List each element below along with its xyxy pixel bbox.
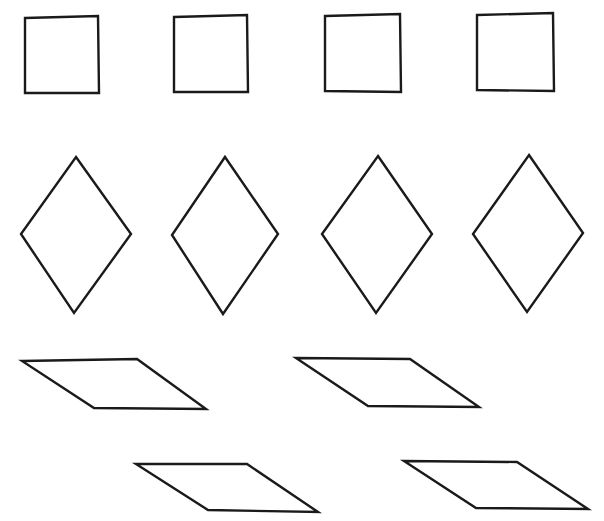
rhombus-3: Rhombus 3 — [322, 156, 432, 313]
square-4: Square 4 — [477, 13, 554, 91]
rhombus-4: Rhombus 4 — [473, 155, 583, 312]
square-3: Square 3 — [325, 14, 401, 92]
square-2: Square 2 — [174, 15, 248, 92]
parallelogram-4: Parallelogram 4 — [404, 461, 588, 509]
shape-layer: Square 1Square 2Square 3Square 4Rhombus … — [21, 13, 588, 512]
parallelogram-2: Parallelogram 2 — [296, 358, 479, 407]
rhombus-2: Rhombus 2 — [172, 157, 278, 314]
rhombus-1: Rhombus 1 — [21, 157, 131, 313]
shapes-figure: Geometric shapes worksheet figure Square… — [0, 0, 604, 521]
figure-canvas: Geometric shapes worksheet figure Square… — [0, 0, 604, 521]
parallelogram-1: Parallelogram 1 — [22, 359, 206, 409]
parallelogram-3: Parallelogram 3 — [136, 464, 318, 512]
square-1: Square 1 — [25, 16, 99, 93]
